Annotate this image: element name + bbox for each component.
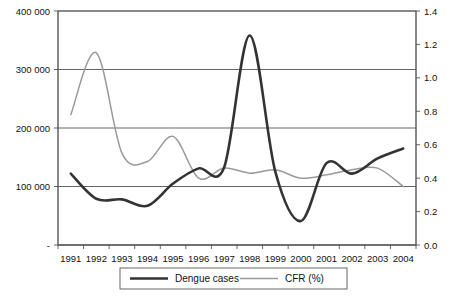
right-axis-ticklabel-0: 0.0 bbox=[424, 240, 437, 251]
legend-label-0: Dengue cases bbox=[175, 273, 239, 284]
x-axis-ticklabel-3: 1994 bbox=[137, 253, 158, 264]
x-axis-ticklabel-4: 1995 bbox=[163, 253, 184, 264]
left-axis-ticklabel-3: 300 000 bbox=[16, 64, 50, 75]
x-axis-ticklabel-5: 1996 bbox=[188, 253, 209, 264]
left-axis-ticklabel-2: 200 000 bbox=[16, 123, 50, 134]
x-axis-ticklabel-2: 1993 bbox=[111, 253, 132, 264]
right-axis-ticklabel-6: 1.2 bbox=[424, 39, 437, 50]
x-axis-ticklabel-13: 2004 bbox=[393, 253, 414, 264]
right-axis-ticklabel-3: 0.6 bbox=[424, 139, 437, 150]
right-axis-ticklabel-4: 0.8 bbox=[424, 106, 437, 117]
x-axis-ticklabel-8: 1999 bbox=[265, 253, 286, 264]
right-axis-ticklabel-7: 1.4 bbox=[424, 6, 437, 17]
left-axis-ticklabel-0: - bbox=[47, 240, 50, 251]
x-axis-ticklabel-0: 1991 bbox=[60, 253, 81, 264]
right-axis-ticklabel-1: 0.2 bbox=[424, 206, 437, 217]
x-axis-ticklabel-6: 1997 bbox=[214, 253, 235, 264]
x-axis-ticklabel-7: 1998 bbox=[239, 253, 260, 264]
x-axis-ticklabel-11: 2002 bbox=[342, 253, 363, 264]
x-axis-ticklabel-12: 2003 bbox=[367, 253, 388, 264]
left-axis-ticklabel-4: 400 000 bbox=[16, 6, 50, 17]
x-axis-ticklabel-9: 2000 bbox=[290, 253, 311, 264]
right-axis-ticklabel-5: 1.0 bbox=[424, 72, 437, 83]
right-axis-ticklabel-2: 0.4 bbox=[424, 173, 437, 184]
dengue-cfr-chart: -100 000200 000300 000400 0000.00.20.40.… bbox=[0, 0, 451, 296]
x-axis-ticklabel-10: 2001 bbox=[316, 253, 337, 264]
x-axis-ticklabel-1: 1992 bbox=[86, 253, 107, 264]
legend-label-1: CFR (%) bbox=[285, 273, 324, 284]
chart-canvas: -100 000200 000300 000400 0000.00.20.40.… bbox=[0, 0, 451, 296]
left-axis-ticklabel-1: 100 000 bbox=[16, 181, 50, 192]
